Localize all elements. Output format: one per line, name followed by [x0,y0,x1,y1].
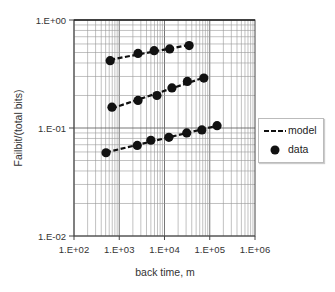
series-group [106,41,194,65]
data-point [167,83,176,92]
x-tick-label: 1.E+06 [240,244,270,255]
data-point [133,141,142,150]
y-tick-label: 1.E-02 [38,231,66,242]
legend-label-model: model [288,124,317,136]
data-point [182,128,191,137]
series-group [107,73,208,111]
x-axis-label: back time, m [135,266,195,278]
legend: model data [258,118,324,163]
data-point [133,49,142,58]
data-point [199,73,208,82]
data-point [152,91,161,100]
y-tick-label: 1.E-01 [38,123,66,134]
data-point [197,125,206,134]
x-tick-label: 1.E+04 [149,244,179,255]
data-point [107,103,116,112]
data-point [101,148,110,157]
data-point [183,77,192,86]
filled-circle-icon [264,142,286,158]
x-tick-label: 1.E+02 [59,244,89,255]
data-point [185,41,194,50]
grid-lines [74,20,255,236]
x-tick-label: 1.E+05 [195,244,225,255]
y-tick-label: 1.E+00 [36,15,66,26]
data-point [150,46,159,55]
data-point [212,121,221,130]
y-axis-label: Failbit/(total bits) [12,89,24,166]
x-tick-label: 1.E+03 [104,244,134,255]
data-point [133,96,142,105]
dashed-line-icon [264,123,286,139]
data-point [164,133,173,142]
data-point [146,136,155,145]
data-point [106,56,115,65]
legend-label-data: data [288,143,308,155]
legend-item-model: model [259,123,323,139]
data-point [165,44,174,53]
plot-frame [69,20,255,240]
legend-item-data: data [259,142,323,158]
